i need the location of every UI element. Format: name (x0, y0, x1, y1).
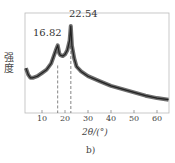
x-tick-label: 50 (129, 114, 139, 123)
xrd-chart (0, 0, 175, 163)
figure-caption: b) (86, 145, 95, 155)
x-tick-label: 30 (83, 114, 93, 123)
x-axis-label: 2θ/(°) (82, 127, 108, 137)
x-ticks (42, 110, 157, 113)
x-tick-label: 20 (60, 114, 70, 123)
x-tick-label: 40 (106, 114, 116, 123)
peak-label-1: 16.82 (33, 27, 62, 38)
peak-label-2: 22.54 (69, 8, 98, 19)
y-axis-label: 强度 (4, 52, 18, 74)
x-tick-label: 10 (37, 114, 47, 123)
x-tick-label: 60 (152, 114, 162, 123)
